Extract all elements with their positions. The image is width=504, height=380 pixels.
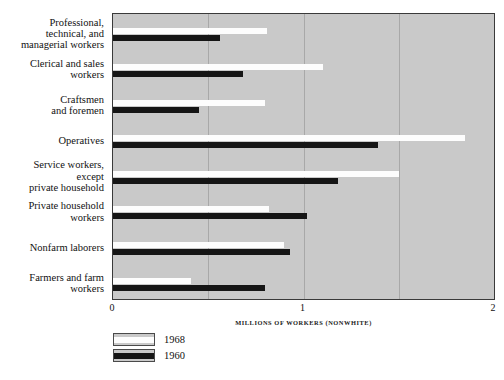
category-label-line: Professional, (0, 17, 104, 28)
category-label: Service workers,exceptprivate household (0, 159, 104, 193)
category-label-line: workers (0, 69, 104, 80)
legend-label-1968: 1968 (164, 334, 185, 345)
bar-1960 (113, 285, 265, 291)
category-label-line: Craftsmen (0, 94, 104, 105)
category-label-line: Clerical and sales (0, 58, 104, 69)
bar-1968 (113, 64, 323, 70)
bar-1968 (113, 171, 399, 177)
category-label: Private householdworkers (0, 200, 104, 223)
chart-figure: Professional,technical, andmanagerial wo… (0, 0, 504, 380)
bar-1960 (113, 213, 307, 219)
bar-group (113, 14, 494, 50)
chart-legend: 1968 1960 (113, 332, 273, 364)
legend-item-1960: 1960 (113, 348, 273, 363)
bar-group (113, 50, 494, 86)
legend-swatch-fill-1968 (114, 337, 154, 343)
category-label: Farmers and farmworkers (0, 272, 104, 295)
bar-1960 (113, 249, 290, 255)
category-label-line: Service workers, (0, 159, 104, 170)
category-label-line: and foremen (0, 105, 104, 116)
category-label: Operatives (0, 135, 104, 146)
bar-group (113, 157, 494, 193)
category-label-line: Operatives (0, 135, 104, 146)
bar-group (113, 228, 494, 264)
legend-item-1968: 1968 (113, 332, 273, 347)
bar-1968 (113, 100, 265, 106)
legend-swatch-fill-1960 (114, 353, 154, 359)
x-tick-label: 0 (110, 302, 115, 313)
bar-1960 (113, 178, 338, 184)
category-label-line: Farmers and farm (0, 272, 104, 283)
bar-rows (113, 14, 494, 299)
x-tick-label: 2 (491, 302, 496, 313)
bar-group (113, 121, 494, 157)
legend-swatch-1960 (113, 349, 155, 362)
x-axis-title: MILLIONS OF WORKERS (NONWHITE) (112, 319, 495, 326)
x-tick-label: 1 (300, 302, 305, 313)
category-label-line: Nonfarm laborers (0, 242, 104, 253)
category-label: Nonfarm laborers (0, 242, 104, 253)
bar-1968 (113, 206, 269, 212)
category-label-line: technical, and (0, 28, 104, 39)
bar-1960 (113, 71, 243, 77)
bar-1968 (113, 242, 284, 248)
bar-group (113, 263, 494, 299)
bar-1960 (113, 107, 199, 113)
bar-group (113, 85, 494, 121)
bar-1968 (113, 28, 267, 34)
legend-swatch-1968 (113, 333, 155, 346)
category-label: Craftsmenand foremen (0, 94, 104, 117)
x-axis-ticks: 012 (112, 300, 495, 316)
bar-1968 (113, 278, 191, 284)
legend-label-1960: 1960 (164, 350, 185, 361)
category-label-line: managerial workers (0, 39, 104, 50)
bar-1960 (113, 35, 220, 41)
category-label-line: private household (0, 182, 104, 193)
category-axis-labels: Professional,technical, andmanagerial wo… (0, 13, 108, 300)
category-label: Clerical and salesworkers (0, 58, 104, 81)
category-label-line: except (0, 171, 104, 182)
plot-area (112, 13, 495, 300)
category-label-line: Private household (0, 200, 104, 211)
bar-1960 (113, 142, 378, 148)
category-label-line: workers (0, 283, 104, 294)
category-label: Professional,technical, andmanagerial wo… (0, 17, 104, 51)
category-label-line: workers (0, 212, 104, 223)
bar-1968 (113, 135, 465, 141)
bar-group (113, 192, 494, 228)
